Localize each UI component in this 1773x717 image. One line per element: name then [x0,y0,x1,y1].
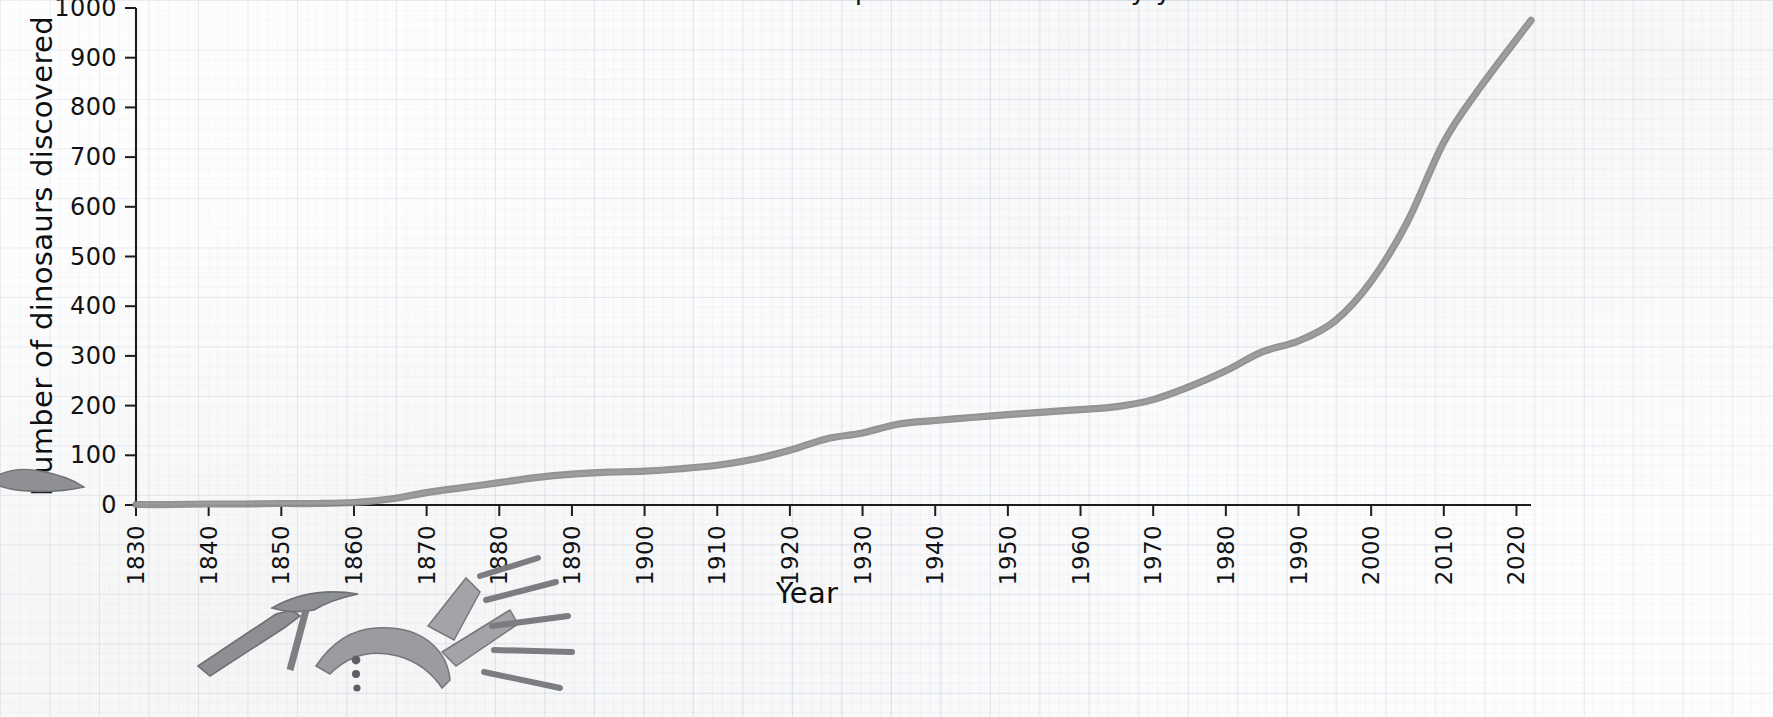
y-tick-label: 500 [70,243,117,271]
y-tick-label: 200 [70,392,117,420]
x-tick-label: 2000 [1358,525,1384,585]
x-axis-tick-group: 1830184018501860187018801890190019101920… [123,505,1529,585]
y-axis-title: Number of dinosaurs discovered [25,16,59,496]
y-tick-label: 100 [70,441,117,469]
x-tick-label: 1970 [1140,525,1166,585]
y-tick-label: 400 [70,292,117,320]
y-tick-label: 300 [70,342,117,370]
y-axis-tick-group: 01002003004005006007008009001000 [54,0,136,519]
x-tick-label: 1870 [414,525,440,585]
data-line [136,20,1531,504]
x-tick-label: 1940 [922,525,948,585]
x-tick-label: 2020 [1503,525,1529,585]
x-tick-label: 1960 [1068,525,1094,585]
x-tick-label: 1950 [995,525,1021,585]
x-tick-label: 1930 [850,525,876,585]
x-tick-label: 1980 [1213,525,1239,585]
x-tick-label: 1830 [123,525,149,585]
x-tick-label: 1900 [632,525,658,585]
x-tick-label: 1990 [1286,525,1312,585]
x-tick-label: 1910 [704,525,730,585]
x-tick-label: 1890 [559,525,585,585]
x-axis-title: Year [775,576,839,610]
x-tick-label: 1840 [196,525,222,585]
y-tick-label: 1000 [54,0,117,22]
y-tick-label: 600 [70,193,117,221]
x-tick-label: 1860 [341,525,367,585]
y-tick-label: 700 [70,143,117,171]
x-tick-label: 1850 [268,525,294,585]
y-tick-label: 800 [70,93,117,121]
x-tick-label: 2010 [1431,525,1457,585]
y-tick-label: 900 [70,44,117,72]
x-tick-label: 1880 [486,525,512,585]
y-tick-label: 0 [101,491,117,519]
data-line-highlight [136,20,1531,504]
line-chart: 01002003004005006007008009001000 1830184… [0,0,1773,717]
